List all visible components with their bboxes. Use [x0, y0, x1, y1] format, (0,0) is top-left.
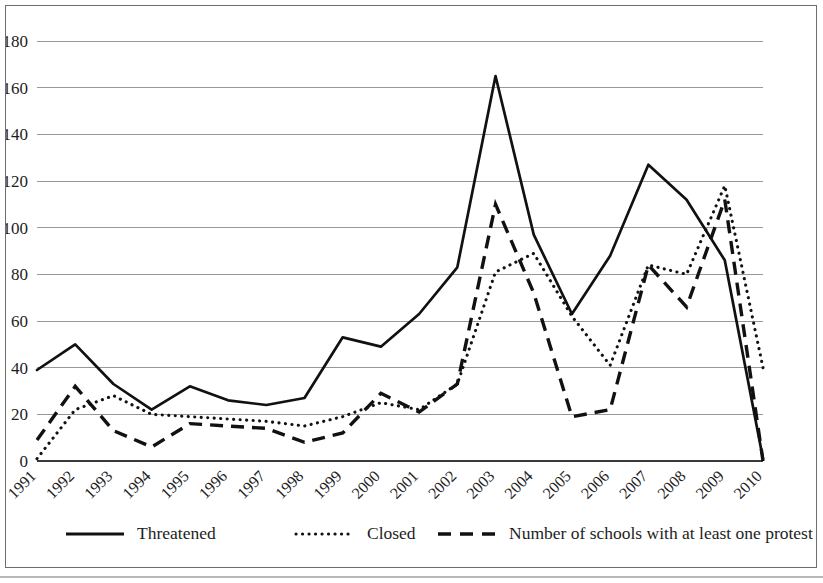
x-axis-tick-label: 2008	[654, 467, 689, 502]
gridlines-group	[37, 41, 763, 461]
data-series-group	[37, 76, 763, 461]
x-axis-tick-label: 2005	[539, 467, 574, 502]
y-axis-tick-label: 120	[6, 172, 28, 191]
x-axis-tick-label: 2000	[348, 467, 383, 502]
y-axis-tick-label: 40	[11, 359, 28, 378]
y-axis-tick-labels: 020406080100120140160180	[6, 32, 28, 471]
x-axis-tick-label: 2009	[692, 467, 727, 502]
x-axis-tick-label: 1994	[119, 467, 154, 502]
y-axis-tick-label: 140	[6, 125, 28, 144]
x-axis-tick-label: 2004	[501, 467, 536, 502]
legend-item-label: Threatened	[137, 523, 216, 543]
x-axis-tick-label: 1991	[6, 467, 39, 502]
x-axis-tick-label: 2006	[578, 467, 613, 502]
y-axis-tick-label: 80	[11, 265, 28, 284]
x-axis-tick-label: 1996	[196, 467, 231, 502]
x-axis-tick-label: 1997	[234, 467, 269, 502]
x-axis-tick-label: 1992	[43, 467, 78, 502]
x-axis-tick-labels: 1991199219931994199519961997199819992000…	[6, 467, 765, 502]
x-axis-tick-label: 1999	[310, 467, 345, 502]
y-axis-tick-label: 20	[11, 405, 28, 424]
series-line-closed	[37, 186, 763, 459]
chart-legend: ThreatenedClosedNumber of schools with a…	[66, 523, 813, 543]
legend-item-label: Number of schools with at least one prot…	[509, 523, 813, 543]
x-axis-tick-label: 2010	[730, 467, 765, 502]
chart-figure-frame: 020406080100120140160180 199119921993199…	[5, 5, 817, 568]
x-axis-tick-label: 1993	[81, 467, 116, 502]
x-axis-tick-label: 2003	[463, 467, 498, 502]
x-axis-tick-label: 1998	[272, 467, 307, 502]
y-axis-tick-label: 60	[11, 312, 28, 331]
page-bottom-rule	[0, 576, 823, 578]
y-axis-tick-label: 180	[6, 32, 28, 51]
y-axis-tick-label: 160	[6, 79, 28, 98]
y-axis-tick-label: 100	[6, 219, 28, 238]
x-axis-tick-label: 2001	[387, 467, 422, 502]
x-axis-tick-label: 2007	[616, 467, 651, 502]
x-axis-tick-label: 2002	[425, 467, 460, 502]
x-axis-tick-label: 1995	[157, 467, 192, 502]
line-chart-svg: 020406080100120140160180 199119921993199…	[6, 6, 818, 569]
chart-plot-area: 020406080100120140160180 199119921993199…	[6, 6, 818, 569]
legend-item-label: Closed	[367, 523, 416, 543]
